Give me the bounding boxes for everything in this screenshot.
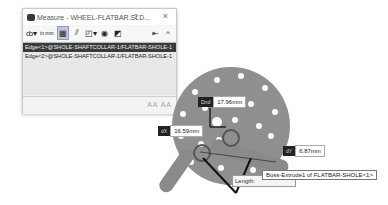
- callout-dy: dY 6.87mm: [283, 146, 325, 156]
- callout-value: 17.96mm: [213, 96, 246, 108]
- callout-dnd: Dnd 17.96mm: [198, 97, 246, 107]
- callout-tag: Dnd: [198, 97, 213, 107]
- callout-tag: dX: [158, 126, 170, 136]
- callout-value: 16.59mm: [170, 125, 203, 137]
- callout-value: 6.87mm: [295, 145, 325, 157]
- selection-tooltip: Boss-Extrude1 of FLATBAR-SHOLE<1>: [262, 170, 377, 180]
- callout-tag: dY: [283, 146, 295, 156]
- callout-dx: dX 16.59mm: [158, 126, 203, 136]
